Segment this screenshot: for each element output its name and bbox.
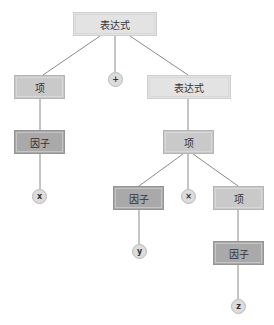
middle-term-node: 项 <box>163 130 214 154</box>
z-variable-leaf: z <box>231 299 246 314</box>
root-expression-node: 表达式 <box>73 12 157 36</box>
leaf-label: z <box>236 302 241 311</box>
leaf-label: × <box>185 192 192 201</box>
times-operator-leaf: × <box>181 189 196 204</box>
node-label: 表达式 <box>100 17 130 32</box>
leaf-label: x <box>37 192 42 201</box>
node-label: 因子 <box>229 246 249 261</box>
y-variable-leaf: y <box>132 244 147 259</box>
right-term-node: 项 <box>213 186 264 210</box>
node-label: 因子 <box>30 135 50 150</box>
node-label: 项 <box>184 135 194 150</box>
node-label: 项 <box>35 80 45 95</box>
node-label: 项 <box>234 191 244 206</box>
node-label: 因子 <box>129 191 149 206</box>
right-expression-node: 表达式 <box>147 75 231 99</box>
bottom-factor-node: 因子 <box>213 241 264 265</box>
leaf-label: + <box>112 75 119 84</box>
x-variable-leaf: x <box>32 189 47 204</box>
leaf-label: y <box>137 247 142 256</box>
plus-operator-leaf: + <box>108 72 123 87</box>
left-term-node: 项 <box>14 75 65 99</box>
tree-edges <box>0 0 274 325</box>
middle-factor-node: 因子 <box>113 186 164 210</box>
node-label: 表达式 <box>174 80 204 95</box>
left-factor-node: 因子 <box>14 130 65 154</box>
